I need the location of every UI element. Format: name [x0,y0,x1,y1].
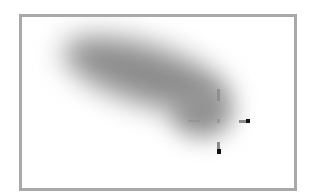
crosshair-tip-right [246,119,250,123]
crosshair-arm-top [217,89,220,101]
crosshair-tip-bottom [217,149,221,154]
image-frame [19,14,297,191]
crosshair-arm-left [188,120,200,122]
blurred-blob-tail [172,87,232,137]
crosshair-center-dot [217,119,220,123]
